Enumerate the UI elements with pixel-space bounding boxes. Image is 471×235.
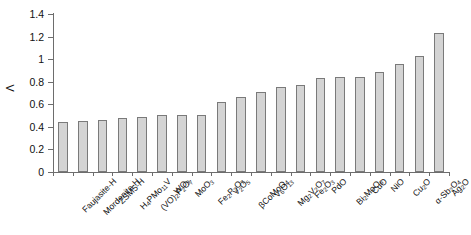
x-axis-tick: [192, 172, 193, 176]
y-axis-tick-label: 0.8: [29, 76, 48, 88]
y-axis-tick-label: 0.4: [29, 121, 48, 133]
x-axis-tick: [211, 172, 212, 176]
plot-area: [53, 14, 449, 172]
x-axis-tick: [350, 172, 351, 176]
x-axis-tick: [152, 172, 153, 176]
x-axis-category-label: NiO: [389, 177, 406, 194]
bar: [177, 115, 187, 172]
x-axis-tick: [370, 172, 371, 176]
bar: [58, 122, 68, 172]
x-axis-tick: [291, 172, 292, 176]
x-axis-tick: [73, 172, 74, 176]
x-axis-tick: [231, 172, 232, 176]
bar: [78, 121, 88, 172]
bar: [118, 118, 128, 172]
bar: [98, 120, 108, 172]
x-axis-category-label: MoO3: [193, 177, 215, 199]
x-axis-tick: [93, 172, 94, 176]
y-axis-label: Λ: [4, 84, 16, 91]
x-axis-category-label: V6O13: [273, 177, 296, 200]
bar: [434, 33, 444, 172]
y-axis-tick-label: 1.4: [29, 8, 48, 20]
bar: [256, 92, 266, 172]
bar: [157, 115, 167, 172]
x-axis-category-label: Cu2O: [411, 177, 433, 199]
x-axis-tick: [310, 172, 311, 176]
bar: [236, 97, 246, 172]
x-axis-tick: [132, 172, 133, 176]
bar: [335, 77, 345, 172]
y-axis-tick-label: 1: [38, 53, 48, 65]
x-axis-tick: [330, 172, 331, 176]
bar: [276, 87, 286, 172]
bar: [197, 115, 207, 172]
x-axis-tick: [53, 172, 54, 176]
x-axis-tick: [271, 172, 272, 176]
y-axis-tick-label: 0.6: [29, 98, 48, 110]
bar: [415, 56, 425, 172]
bar: [137, 117, 147, 172]
x-axis-tick: [449, 172, 450, 176]
x-axis-tick: [172, 172, 173, 176]
x-axis-tick: [112, 172, 113, 176]
bar: [296, 85, 306, 173]
bar: [217, 102, 227, 172]
bar: [375, 72, 385, 172]
x-axis-tick: [429, 172, 430, 176]
y-axis-tick-label: 0: [38, 166, 48, 178]
x-axis-tick: [409, 172, 410, 176]
y-axis-tick-label: 1.2: [29, 31, 48, 43]
x-axis-tick: [251, 172, 252, 176]
x-axis-tick: [390, 172, 391, 176]
bar: [395, 64, 405, 172]
y-axis-tick-label: 0.2: [29, 143, 48, 155]
bar: [316, 78, 326, 172]
bar: [355, 77, 365, 172]
